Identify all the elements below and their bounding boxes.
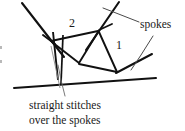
left-margin-artifact-upper [0, 46, 2, 49]
straight-stitch-bar-right [61, 35, 63, 84]
spokes-group [14, 2, 156, 88]
spoke-upper-left-diagonal [22, 3, 64, 57]
stitch-diagram-figure: 2 1 spokes straight stitches over the sp… [0, 0, 185, 131]
label-number-2: 2 [69, 17, 75, 29]
left-margin-artifact-lower [0, 60, 2, 63]
caption-line-2: over the spokes [29, 113, 101, 128]
caption: straight stitches over the spokes [29, 98, 101, 129]
leader-spokes-lower [131, 36, 153, 70]
web-edge-top-to-lower-right [99, 32, 117, 72]
spoke-lower-sweep [14, 78, 156, 88]
leader-spokes-upper [103, 8, 139, 22]
label-spokes: spokes [140, 19, 171, 31]
caption-line-1: straight stitches [29, 98, 101, 113]
web-edge-center-to-lower-right [79, 64, 117, 72]
label-number-1: 1 [116, 39, 122, 51]
web-edge-top-to-center [79, 32, 98, 63]
spoke-right-tail [116, 54, 152, 73]
web-edge-left-to-top [51, 31, 98, 41]
